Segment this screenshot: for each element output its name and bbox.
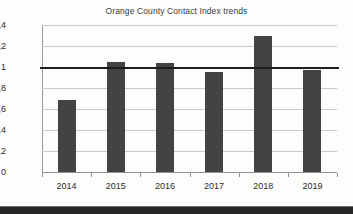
gridline xyxy=(42,88,337,89)
x-axis-tick xyxy=(190,173,191,177)
x-axis-tick-label: 2018 xyxy=(240,181,286,191)
y-axis-tick-label: 0,4 xyxy=(0,125,6,135)
gridline xyxy=(42,25,337,26)
x-axis-tick xyxy=(140,173,141,177)
bar xyxy=(254,36,272,173)
y-axis-tick-label: 0,6 xyxy=(0,104,6,114)
x-axis-tick xyxy=(288,173,289,177)
bar xyxy=(303,70,321,172)
x-axis-tick-label: 2017 xyxy=(191,181,237,191)
y-axis-tick-label: 1,2 xyxy=(0,41,6,51)
reference-line-at-one xyxy=(40,67,339,69)
bar xyxy=(205,72,223,172)
x-axis-tick-label: 2016 xyxy=(142,181,188,191)
x-axis-tick xyxy=(239,173,240,177)
y-axis-tick-label: 1,4 xyxy=(0,20,6,30)
gridline xyxy=(42,151,337,152)
y-axis-tick-label: 1 xyxy=(0,62,6,72)
scan-bottom-band xyxy=(0,207,353,214)
x-axis-tick xyxy=(42,173,43,177)
x-axis-tick xyxy=(337,173,338,177)
x-axis-tick-label: 2015 xyxy=(93,181,139,191)
bar xyxy=(58,100,76,172)
gridline xyxy=(42,46,337,47)
x-axis-tick xyxy=(91,173,92,177)
y-axis-tick-label: 0,8 xyxy=(0,83,6,93)
y-axis-tick-label: 0 xyxy=(0,167,6,177)
plot-area xyxy=(42,25,337,172)
x-axis-tick-label: 2014 xyxy=(44,181,90,191)
gridline xyxy=(42,109,337,110)
bar xyxy=(156,63,174,172)
gridline xyxy=(42,130,337,131)
y-axis-tick-label: 0,2 xyxy=(0,146,6,156)
bar xyxy=(107,62,125,172)
chart-title: Orange County Contact Index trends xyxy=(0,6,353,16)
bar-chart-figure: Orange County Contact Index trends 00,20… xyxy=(0,0,353,214)
x-axis-tick-label: 2019 xyxy=(289,181,335,191)
